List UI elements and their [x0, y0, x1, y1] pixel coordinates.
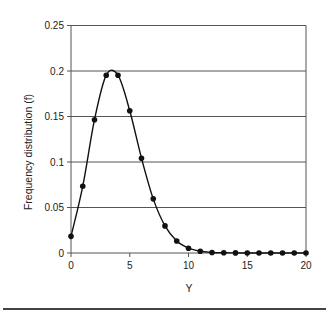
data-point	[221, 250, 227, 256]
data-point	[209, 250, 215, 256]
x-axis-ticks: 05101520	[68, 253, 312, 271]
x-tick-label: 0	[68, 260, 74, 271]
x-tick-label: 15	[242, 260, 254, 271]
x-axis-label: Y	[185, 282, 192, 294]
frequency-distribution-chart: 00.050.10.150.20.25 05101520 Y Frequency…	[0, 0, 331, 312]
data-point	[303, 250, 309, 256]
y-tick-label: 0	[58, 248, 64, 259]
y-tick-label: 0.25	[45, 20, 65, 31]
data-point	[197, 248, 203, 254]
y-tick-label: 0.1	[50, 157, 64, 168]
y-axis-ticks: 00.050.10.150.20.25	[45, 20, 71, 259]
data-point	[80, 183, 86, 189]
data-point	[68, 234, 74, 240]
data-point	[115, 72, 121, 78]
data-point	[139, 155, 145, 161]
x-tick-label: 10	[183, 260, 195, 271]
data-point-markers	[68, 72, 309, 255]
data-point	[233, 250, 239, 256]
data-point	[103, 72, 109, 78]
y-tick-label: 0.2	[50, 66, 64, 77]
horizontal-gridlines	[71, 26, 306, 208]
data-point	[280, 250, 286, 256]
data-point	[174, 238, 180, 244]
data-point	[256, 250, 262, 256]
data-point	[244, 250, 250, 256]
data-point	[268, 250, 274, 256]
data-point	[186, 245, 192, 251]
bottom-divider	[3, 308, 326, 310]
x-tick-label: 5	[127, 260, 133, 271]
y-tick-label: 0.05	[45, 202, 65, 213]
x-tick-label: 20	[300, 260, 312, 271]
data-point	[150, 196, 156, 202]
axes	[71, 26, 306, 254]
data-point	[127, 108, 133, 114]
y-axis-label: Frequency distribution (f)	[22, 94, 34, 210]
data-point	[162, 223, 168, 229]
y-tick-label: 0.15	[45, 111, 65, 122]
data-point	[92, 117, 98, 123]
data-point	[291, 250, 297, 256]
